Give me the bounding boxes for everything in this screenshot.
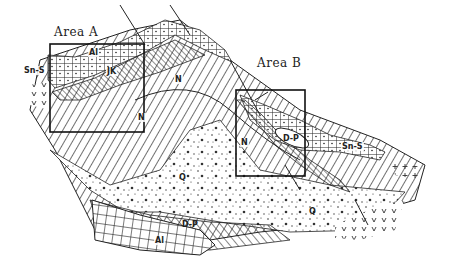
label-n-area-a: N	[137, 113, 146, 122]
label-sn-s-right: Sn-S	[341, 142, 364, 151]
label-n-top: N	[174, 75, 183, 84]
label-q-right: Q	[308, 207, 317, 216]
label-dp-area-b: D-P	[282, 134, 300, 143]
label-n-area-b: N	[240, 138, 249, 147]
label-jk: JK	[106, 67, 117, 76]
area-b-title: Area B	[257, 56, 301, 70]
label-sn-s-left: Sn-S	[23, 66, 46, 75]
geological-map	[0, 0, 449, 271]
label-al-bottom: Al	[154, 236, 165, 245]
area-a-title: Area A	[54, 25, 98, 39]
label-q-center: Q	[178, 173, 187, 182]
label-al-top: Al	[88, 48, 99, 57]
label-dp-bottom: D-P	[181, 220, 199, 229]
